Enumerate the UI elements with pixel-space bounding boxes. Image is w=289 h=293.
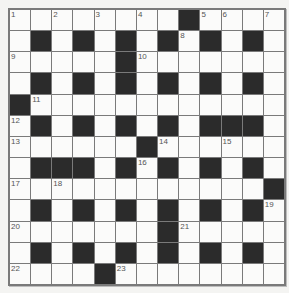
- answer-cell[interactable]: [31, 222, 51, 242]
- answer-cell[interactable]: 12: [10, 116, 30, 136]
- answer-cell[interactable]: [179, 52, 199, 72]
- answer-cell[interactable]: [52, 243, 72, 263]
- answer-cell[interactable]: [73, 179, 93, 199]
- answer-cell[interactable]: [264, 52, 284, 72]
- answer-cell[interactable]: [95, 31, 115, 51]
- answer-cell[interactable]: 1: [10, 10, 30, 30]
- answer-cell[interactable]: [52, 52, 72, 72]
- answer-cell[interactable]: [243, 179, 263, 199]
- answer-cell[interactable]: 7: [264, 10, 284, 30]
- answer-cell[interactable]: [31, 52, 51, 72]
- answer-cell[interactable]: [73, 52, 93, 72]
- answer-cell[interactable]: 8: [179, 31, 199, 51]
- answer-cell[interactable]: [52, 137, 72, 157]
- answer-cell[interactable]: [10, 73, 30, 93]
- answer-cell[interactable]: [116, 137, 136, 157]
- answer-cell[interactable]: [52, 116, 72, 136]
- answer-cell[interactable]: [264, 95, 284, 115]
- answer-cell[interactable]: [222, 243, 242, 263]
- answer-cell[interactable]: 23: [116, 264, 136, 284]
- answer-cell[interactable]: 10: [137, 52, 157, 72]
- answer-cell[interactable]: [10, 31, 30, 51]
- answer-cell[interactable]: [137, 116, 157, 136]
- answer-cell[interactable]: [95, 73, 115, 93]
- answer-cell[interactable]: 11: [31, 95, 51, 115]
- answer-cell[interactable]: [200, 264, 220, 284]
- answer-cell[interactable]: [95, 116, 115, 136]
- answer-cell[interactable]: [179, 73, 199, 93]
- answer-cell[interactable]: [264, 158, 284, 178]
- answer-cell[interactable]: 13: [10, 137, 30, 157]
- answer-cell[interactable]: [200, 179, 220, 199]
- answer-cell[interactable]: [73, 10, 93, 30]
- answer-cell[interactable]: [137, 179, 157, 199]
- answer-cell[interactable]: [179, 158, 199, 178]
- answer-cell[interactable]: [179, 116, 199, 136]
- answer-cell[interactable]: [158, 95, 178, 115]
- answer-cell[interactable]: [158, 52, 178, 72]
- answer-cell[interactable]: [137, 73, 157, 93]
- answer-cell[interactable]: [52, 95, 72, 115]
- answer-cell[interactable]: 17: [10, 179, 30, 199]
- answer-cell[interactable]: [158, 179, 178, 199]
- answer-cell[interactable]: [10, 243, 30, 263]
- answer-cell[interactable]: [73, 264, 93, 284]
- answer-cell[interactable]: [243, 222, 263, 242]
- answer-cell[interactable]: [73, 95, 93, 115]
- answer-cell[interactable]: [200, 222, 220, 242]
- answer-cell[interactable]: [95, 137, 115, 157]
- answer-cell[interactable]: [95, 243, 115, 263]
- answer-cell[interactable]: [116, 179, 136, 199]
- answer-cell[interactable]: [52, 31, 72, 51]
- answer-cell[interactable]: [95, 95, 115, 115]
- answer-cell[interactable]: 5: [200, 10, 220, 30]
- answer-cell[interactable]: [10, 158, 30, 178]
- answer-cell[interactable]: [264, 31, 284, 51]
- answer-cell[interactable]: 9: [10, 52, 30, 72]
- answer-cell[interactable]: [222, 179, 242, 199]
- answer-cell[interactable]: [264, 264, 284, 284]
- answer-cell[interactable]: [179, 137, 199, 157]
- answer-cell[interactable]: [264, 222, 284, 242]
- answer-cell[interactable]: [116, 10, 136, 30]
- answer-cell[interactable]: [95, 222, 115, 242]
- answer-cell[interactable]: 2: [52, 10, 72, 30]
- answer-cell[interactable]: [10, 200, 30, 220]
- answer-cell[interactable]: [179, 179, 199, 199]
- answer-cell[interactable]: [222, 31, 242, 51]
- answer-cell[interactable]: [179, 200, 199, 220]
- answer-cell[interactable]: [179, 264, 199, 284]
- answer-cell[interactable]: [31, 137, 51, 157]
- answer-cell[interactable]: [243, 137, 263, 157]
- answer-cell[interactable]: [222, 73, 242, 93]
- answer-cell[interactable]: [200, 137, 220, 157]
- answer-cell[interactable]: [95, 179, 115, 199]
- answer-cell[interactable]: [31, 264, 51, 284]
- answer-cell[interactable]: [243, 95, 263, 115]
- answer-cell[interactable]: 20: [10, 222, 30, 242]
- answer-cell[interactable]: [73, 222, 93, 242]
- answer-cell[interactable]: [116, 222, 136, 242]
- answer-cell[interactable]: 4: [137, 10, 157, 30]
- answer-cell[interactable]: [137, 200, 157, 220]
- answer-cell[interactable]: 21: [179, 222, 199, 242]
- answer-cell[interactable]: [200, 52, 220, 72]
- answer-cell[interactable]: [95, 200, 115, 220]
- answer-cell[interactable]: [31, 10, 51, 30]
- answer-cell[interactable]: [222, 158, 242, 178]
- answer-cell[interactable]: 22: [10, 264, 30, 284]
- answer-cell[interactable]: 6: [222, 10, 242, 30]
- answer-cell[interactable]: [52, 73, 72, 93]
- answer-cell[interactable]: [222, 264, 242, 284]
- answer-cell[interactable]: [137, 264, 157, 284]
- answer-cell[interactable]: [116, 95, 136, 115]
- answer-cell[interactable]: [264, 73, 284, 93]
- answer-cell[interactable]: 18: [52, 179, 72, 199]
- answer-cell[interactable]: [222, 222, 242, 242]
- answer-cell[interactable]: [137, 222, 157, 242]
- answer-cell[interactable]: [222, 95, 242, 115]
- answer-cell[interactable]: [52, 264, 72, 284]
- answer-cell[interactable]: [179, 243, 199, 263]
- answer-cell[interactable]: [137, 95, 157, 115]
- answer-cell[interactable]: [52, 200, 72, 220]
